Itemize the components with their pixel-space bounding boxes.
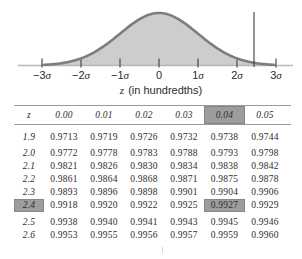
value-cell: 0.9878	[245, 173, 285, 186]
table-row: 2.10.98210.98260.98300.98340.98380.9842	[14, 160, 285, 173]
value-cell: 0.9798	[245, 147, 285, 160]
value-cell: 0.9842	[245, 160, 285, 173]
x-tick-number: 0	[156, 69, 162, 81]
value-cell: 0.9830	[124, 160, 164, 173]
value-cell: 0.9834	[164, 160, 204, 173]
x-tick-label: −3σ	[33, 69, 51, 82]
value-cell: 0.9904	[204, 186, 245, 199]
value-cell: 0.9738	[204, 130, 245, 143]
value-cell: 0.9941	[124, 215, 164, 228]
value-cell: 0.9772	[44, 147, 84, 160]
value-cell: 0.9956	[124, 228, 164, 241]
normal-curve-svg	[0, 0, 302, 70]
value-cell: 0.9960	[245, 228, 285, 241]
value-cell: 0.9959	[204, 228, 245, 241]
x-tick-label: 2σ	[231, 69, 243, 82]
table-row: 2.40.99180.99200.99220.99250.99270.9929	[14, 199, 285, 212]
table-header-row: z0.000.010.020.030.040.05	[14, 106, 285, 124]
row-header-cell: 2.0	[14, 147, 44, 160]
value-cell: 0.9943	[164, 215, 204, 228]
value-cell: 0.9918	[44, 199, 84, 212]
page-center-mark	[162, 247, 163, 253]
table-row: 2.30.98930.98960.98980.99010.99040.9906	[14, 186, 285, 199]
value-cell: 0.9826	[84, 160, 124, 173]
value-cell: 0.9788	[164, 147, 204, 160]
value-cell: 0.9719	[84, 130, 124, 143]
row-header-cell: 2.6	[14, 228, 44, 241]
value-cell: 0.9821	[44, 160, 84, 173]
row-header-cell: 2.4	[14, 199, 44, 212]
curve-fill	[44, 13, 274, 66]
x-tick-label: 3σ	[270, 69, 282, 82]
sigma-symbol: σ	[85, 69, 90, 81]
x-tick-label: −2σ	[72, 69, 90, 82]
column-header-cell: 0.00	[44, 106, 84, 124]
value-cell: 0.9783	[124, 147, 164, 160]
value-cell: 0.9940	[84, 215, 124, 228]
value-cell: 0.9957	[164, 228, 204, 241]
row-header-cell: 2.5	[14, 215, 44, 228]
table-row: 2.60.99530.99550.99560.99570.99590.9960	[14, 228, 285, 241]
value-cell: 0.9713	[44, 130, 84, 143]
value-cell: 0.9920	[84, 199, 124, 212]
value-cell: 0.9927	[204, 199, 245, 212]
value-cell: 0.9732	[164, 130, 204, 143]
value-cell: 0.9953	[44, 228, 84, 241]
column-header-cell: 0.03	[164, 106, 204, 124]
sigma-symbol: σ	[237, 69, 242, 81]
value-cell: 0.9726	[124, 130, 164, 143]
x-axis-title: z (in hundredths)	[10, 84, 302, 97]
table-row: 1.90.97130.97190.97260.97320.97380.9744	[14, 130, 285, 143]
value-cell: 0.9778	[84, 147, 124, 160]
value-cell: 0.9793	[204, 147, 245, 160]
xlabel-units: (in hundredths)	[125, 84, 202, 96]
column-header-cell: 0.05	[245, 106, 285, 124]
sigma-symbol: σ	[198, 69, 203, 81]
value-cell: 0.9861	[44, 173, 84, 186]
x-tick-number: −2	[72, 69, 85, 81]
row-header-cell: 2.2	[14, 173, 44, 186]
x-tick-number: −1	[111, 69, 124, 81]
value-cell: 0.9864	[84, 173, 124, 186]
x-tick-label: −1σ	[111, 69, 129, 82]
value-cell: 0.9898	[124, 186, 164, 199]
value-cell: 0.9906	[245, 186, 285, 199]
table-row: 2.50.99380.99400.99410.99430.99450.9946	[14, 215, 285, 228]
column-header-cell: z	[14, 106, 44, 124]
value-cell: 0.9925	[164, 199, 204, 212]
value-cell: 0.9838	[204, 160, 245, 173]
value-cell: 0.9938	[44, 215, 84, 228]
x-tick-number: −3	[33, 69, 46, 81]
z-table-body: 1.90.97130.97190.97260.97320.97380.97442…	[14, 130, 285, 241]
column-header-cell: 0.02	[124, 106, 164, 124]
x-tick-label: 0	[156, 69, 162, 82]
value-cell: 0.9871	[164, 173, 204, 186]
value-cell: 0.9893	[44, 186, 84, 199]
column-header-cell: 0.01	[84, 106, 124, 124]
column-header-cell: 0.04	[204, 106, 245, 124]
value-cell: 0.9875	[204, 173, 245, 186]
value-cell: 0.9929	[245, 199, 285, 212]
value-cell: 0.9922	[124, 199, 164, 212]
sigma-symbol: σ	[124, 69, 129, 81]
row-header-cell: 2.1	[14, 160, 44, 173]
value-cell: 0.9896	[84, 186, 124, 199]
value-cell: 0.9945	[204, 215, 245, 228]
value-cell: 0.9946	[245, 215, 285, 228]
value-cell: 0.9744	[245, 130, 285, 143]
row-header-cell: 1.9	[14, 130, 44, 143]
table-header-rule	[14, 124, 291, 125]
x-tick-label: 1σ	[192, 69, 204, 82]
value-cell: 0.9868	[124, 173, 164, 186]
table-row: 2.20.98610.98640.98680.98710.98750.9878	[14, 173, 285, 186]
normal-distribution-figure: −3σ−2σ−1σ01σ2σ3σ z (in hundredths) z0.00…	[0, 0, 302, 259]
sigma-symbol: σ	[276, 69, 281, 81]
table-row: 2.00.97720.97780.97830.97880.97930.9798	[14, 147, 285, 160]
sigma-symbol: σ	[46, 69, 51, 81]
value-cell: 0.9955	[84, 228, 124, 241]
value-cell: 0.9901	[164, 186, 204, 199]
row-header-cell: 2.3	[14, 186, 44, 199]
